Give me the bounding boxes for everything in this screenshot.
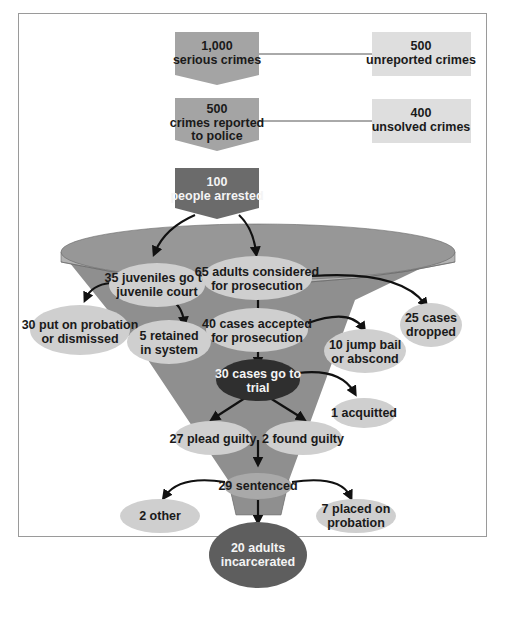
node-label: 2 found guilty (262, 432, 344, 446)
flow-box-value: 100 (207, 175, 228, 189)
node-label: 1 acquitted (331, 406, 397, 420)
node-label: trial (247, 381, 270, 395)
side-box-unsolved-crimes: 400 unsolved crimes (372, 99, 471, 143)
node-dropped: 25 cases dropped (400, 303, 462, 347)
node-acquitted: 1 acquitted (331, 398, 397, 428)
node-jump-bail: 10 jump bail or abscond (324, 329, 406, 373)
node-label: in system (140, 343, 198, 357)
node-label: 25 cases (405, 311, 457, 325)
flow-box-people-arrested: 100 people arrested (170, 168, 263, 219)
node-label: 10 jump bail (329, 338, 401, 352)
flow-box-crimes-reported: 500 crimes reported to police (170, 98, 264, 151)
flow-box-value: 1,000 (201, 39, 232, 53)
node-label: 5 retained (139, 329, 198, 343)
node-label: 27 plead guilty (170, 432, 257, 446)
node-retained: 5 retained in system (127, 320, 211, 364)
node-label: 2 other (139, 509, 181, 523)
node-label: 29 sentenced (218, 479, 297, 493)
node-other: 2 other (120, 499, 200, 533)
side-box-value: 400 (411, 106, 432, 120)
side-box-unreported-crimes: 500 unreported crimes (366, 32, 476, 76)
node-label: 20 adults (231, 541, 285, 555)
node-label: or dismissed (41, 332, 118, 346)
node-label: for prosecution (211, 279, 303, 293)
flow-box-label: crimes reported (170, 116, 264, 130)
node-label: juvenile court (115, 285, 198, 299)
flow-box-serious-crimes: 1,000 serious crimes (173, 32, 261, 85)
node-label: incarcerated (221, 555, 295, 569)
side-box-label: unsolved crimes (372, 120, 471, 134)
node-placed-probation: 7 placed on probation (316, 499, 396, 533)
node-label: 30 cases go to (215, 367, 302, 381)
node-label: probation (327, 516, 385, 530)
flow-box-label: to police (191, 129, 242, 143)
flow-box-value: 500 (207, 102, 228, 116)
node-label: or abscond (331, 352, 398, 366)
node-incarcerated: 20 adults incarcerated (209, 522, 307, 588)
node-label: 30 put on probation (22, 318, 139, 332)
flow-box-label: people arrested (170, 189, 263, 203)
node-label: 40 cases accepted (202, 317, 312, 331)
node-label: for prosecution (211, 331, 303, 345)
flow-box-label: serious crimes (173, 53, 261, 67)
node-label: dropped (406, 325, 456, 339)
criminal-justice-funnel-diagram: 1,000 serious crimes 500 crimes reported… (0, 0, 506, 638)
node-label: 7 placed on (322, 502, 391, 516)
side-box-label: unreported crimes (366, 53, 476, 67)
node-label: 65 adults considered (195, 265, 319, 279)
side-box-value: 500 (411, 39, 432, 53)
